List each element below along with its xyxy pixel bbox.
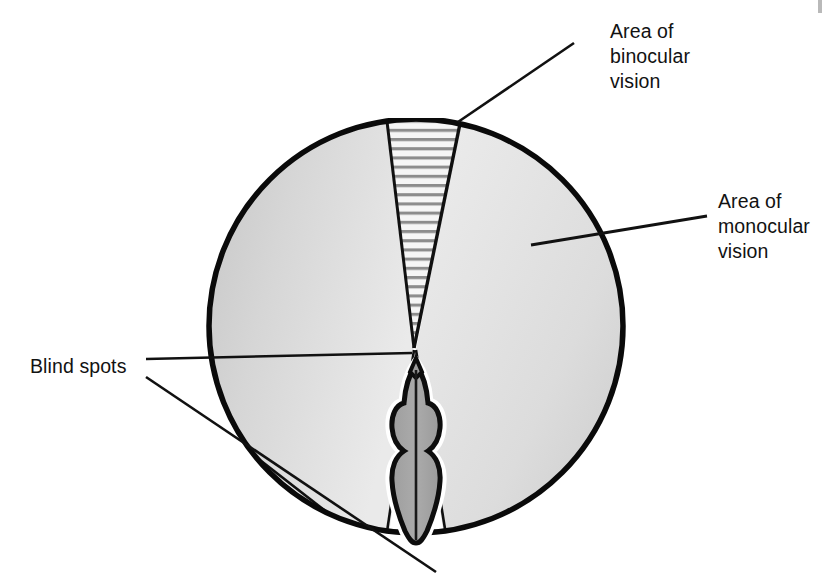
monocular-sector-right [416,114,687,566]
leader-line-binocular [458,43,574,122]
figure-root: Area of binocular vision Area of monocul… [0,0,836,578]
rim-opening-mask [383,95,464,112]
label-blind-spots-line-1: Blind spots [30,355,127,377]
label-blind-spots: Blind spots [30,355,127,377]
vision-field-diagram: Area of binocular vision Area of monocul… [0,0,836,578]
label-monocular-line-1: Area of [718,190,782,212]
label-monocular-line-2: monocular [718,215,810,237]
page-edge-artifact [818,0,822,13]
label-monocular-line-3: vision [718,240,768,262]
label-binocular-line-3: vision [610,70,660,92]
label-monocular-vision: Area of monocular vision [718,190,810,262]
label-binocular-vision: Area of binocular vision [610,20,690,92]
label-binocular-line-2: binocular [610,45,690,67]
label-binocular-line-1: Area of [610,20,674,42]
